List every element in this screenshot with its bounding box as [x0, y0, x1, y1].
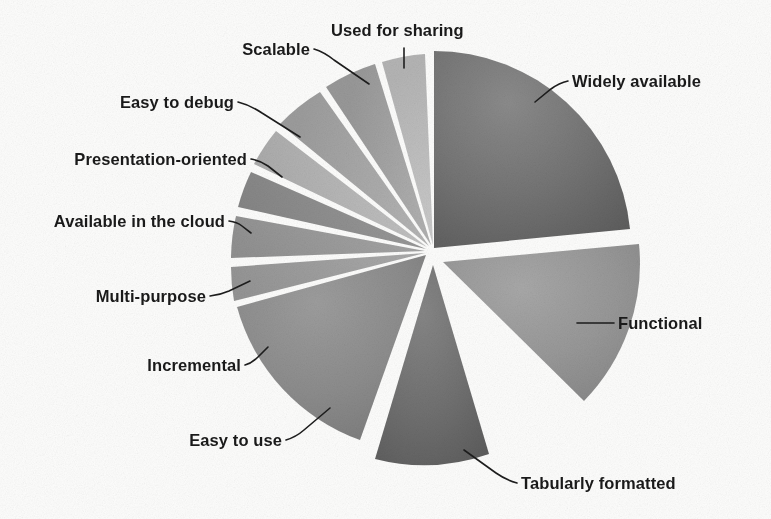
slice-label-incremental: Incremental: [147, 356, 241, 374]
leader-line-easy-to-use: [286, 408, 330, 440]
slice-label-widely-available: Widely available: [572, 72, 701, 90]
leader-line-tabularly-formatted: [464, 450, 517, 483]
slice-label-used-for-sharing: Used for sharing: [331, 21, 464, 39]
slice-label-scalable: Scalable: [242, 40, 310, 58]
slice-label-easy-to-use: Easy to use: [189, 431, 282, 449]
slice-label-functional: Functional: [618, 314, 702, 332]
slice-label-presentation-oriented: Presentation-oriented: [74, 150, 247, 168]
pie-chart: Used for sharing Scalable Easy to debug …: [0, 0, 771, 519]
chart-canvas: Used for sharing Scalable Easy to debug …: [0, 0, 771, 519]
slice-label-multi-purpose: Multi-purpose: [96, 287, 206, 305]
slice-label-available-in-the-cloud: Available in the cloud: [54, 212, 225, 230]
slice-label-easy-to-debug: Easy to debug: [120, 93, 234, 111]
slice-label-tabularly-formatted: Tabularly formatted: [521, 474, 676, 492]
